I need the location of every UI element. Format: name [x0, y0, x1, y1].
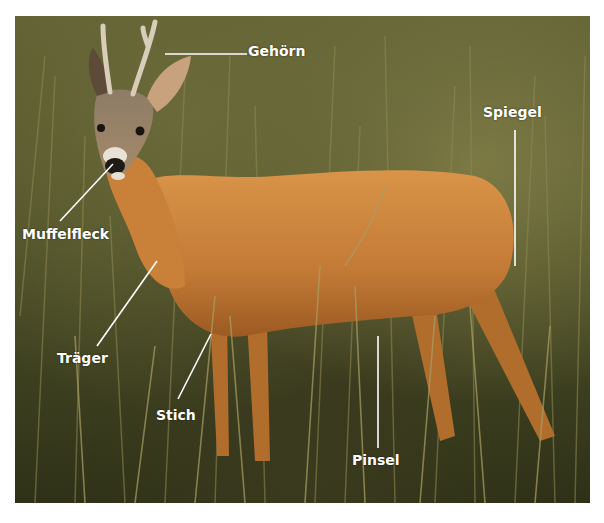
- deer-eye-right: [136, 127, 145, 136]
- roe-deer-photo: [15, 16, 590, 503]
- label-muffelfleck: Muffelfleck: [22, 226, 109, 242]
- label-pinsel: Pinsel: [352, 452, 400, 468]
- label-traeger: Träger: [57, 350, 108, 366]
- deer-antlers: [103, 22, 155, 94]
- label-spiegel: Spiegel: [483, 104, 542, 120]
- deer-illustration: [15, 16, 590, 503]
- leader-line-traeger: [97, 261, 157, 346]
- label-gehoern: Gehörn: [248, 43, 305, 59]
- nose: [105, 158, 125, 174]
- deer-body: [135, 170, 514, 336]
- deer-eye-left: [97, 124, 105, 132]
- leader-line-muffelfleck: [60, 164, 113, 221]
- label-stich: Stich: [156, 407, 196, 423]
